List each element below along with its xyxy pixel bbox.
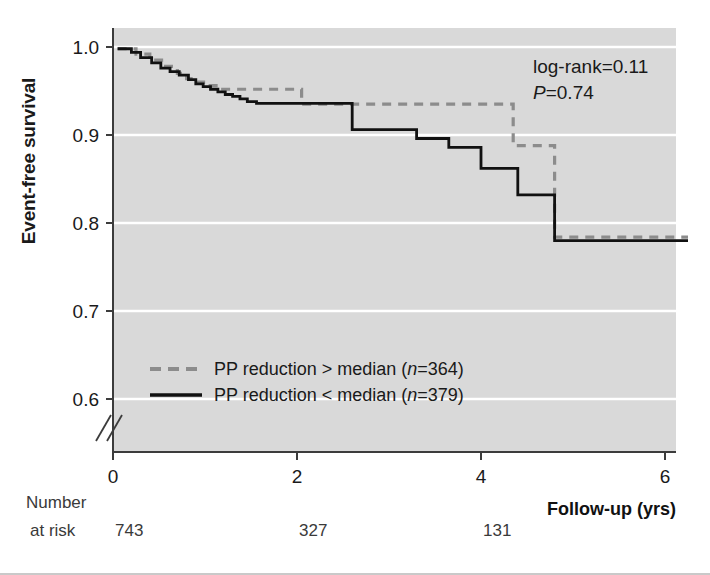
y-tick-label-1.0: 1.0	[73, 37, 99, 58]
legend-n-symbol: n	[407, 359, 417, 379]
risk-label-line2: at risk	[30, 521, 76, 540]
y-tick-label-0.6: 0.6	[73, 389, 99, 410]
x-tick-label-4: 4	[476, 466, 487, 487]
km-survival-chart: 1.00.90.80.70.60246log-rank=0.11P=0.74PP…	[0, 0, 710, 575]
p-number: =0.74	[546, 82, 595, 103]
x-tick-label-6: 6	[660, 466, 671, 487]
legend-label-solid: PP reduction < median (n=379)	[214, 385, 464, 405]
x-axis-title: Follow-up (yrs)	[547, 499, 676, 519]
legend-text-after: =379)	[417, 385, 464, 405]
p-value-annotation: P=0.74	[533, 82, 594, 103]
top-margin	[0, 0, 710, 6]
y-tick-label-0.8: 0.8	[73, 213, 99, 234]
y-axis-title: Event-free survival	[18, 46, 40, 276]
risk-label-line1: Number	[26, 493, 87, 512]
legend-text-after: =364)	[417, 359, 464, 379]
legend-text-before: PP reduction > median (	[214, 359, 407, 379]
figure-root: Event-free survival 1.00.90.80.70.60246l…	[0, 0, 710, 575]
p-symbol: P	[533, 82, 546, 103]
legend-n-symbol: n	[407, 385, 417, 405]
x-tick-label-2: 2	[292, 466, 303, 487]
y-tick-label-0.9: 0.9	[73, 125, 99, 146]
bottom-margin	[0, 555, 710, 573]
risk-value-0: 743	[115, 521, 143, 540]
x-tick-label-0: 0	[108, 466, 119, 487]
risk-value-1: 327	[299, 521, 327, 540]
logrank-annotation: log-rank=0.11	[533, 56, 648, 77]
legend-label-dashed: PP reduction > median (n=364)	[214, 359, 464, 379]
legend-text-before: PP reduction < median (	[214, 385, 407, 405]
y-tick-label-0.7: 0.7	[73, 301, 99, 322]
risk-value-2: 131	[483, 521, 511, 540]
